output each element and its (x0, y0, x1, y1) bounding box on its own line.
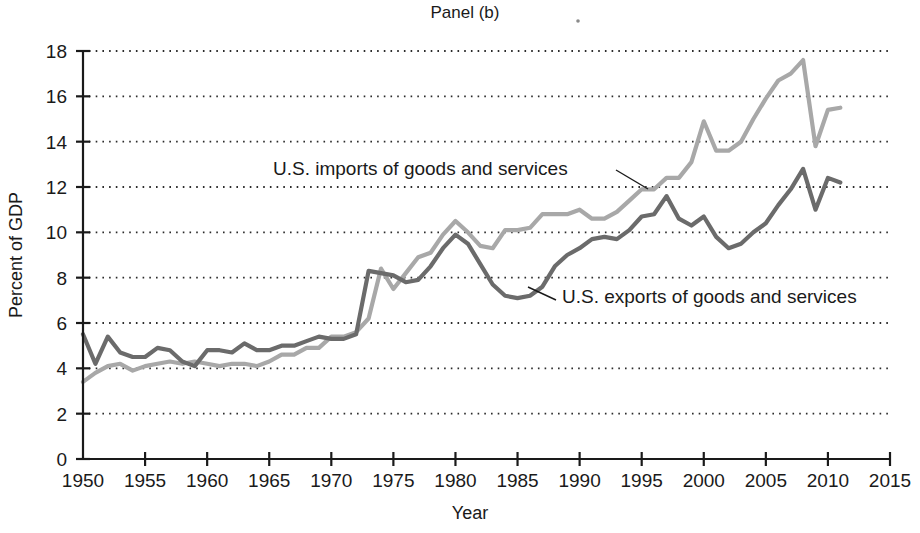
axis-lines (83, 51, 890, 459)
y-tick-label-18: 18 (46, 41, 67, 62)
x-axis-title: Year (452, 503, 488, 523)
gridlines-group (89, 51, 890, 414)
x-tick-label-1980: 1980 (434, 470, 476, 491)
y-tick-label-16: 16 (46, 86, 67, 107)
y-tick-label-4: 4 (56, 358, 67, 379)
x-tick-label-1955: 1955 (124, 470, 166, 491)
dust-speck-artifact (576, 19, 580, 23)
series-line-exports (83, 169, 840, 366)
y-tick-label-2: 2 (56, 404, 67, 425)
y-axis-title: Percent of GDP (6, 192, 26, 318)
y-tick-label-6: 6 (56, 313, 67, 334)
y-tick-label-8: 8 (56, 268, 67, 289)
x-tick-label-1965: 1965 (248, 470, 290, 491)
x-tick-label-1985: 1985 (496, 470, 538, 491)
x-tick-label-1960: 1960 (186, 470, 228, 491)
x-tick-label-2005: 2005 (745, 470, 787, 491)
y-tick-label-0: 0 (56, 449, 67, 470)
y-tick-label-12: 12 (46, 177, 67, 198)
x-tick-label-1995: 1995 (621, 470, 663, 491)
axes-group (76, 51, 890, 466)
x-tick-label-2015: 2015 (869, 470, 911, 491)
y-tick-label-14: 14 (46, 132, 68, 153)
x-tick-label-1975: 1975 (372, 470, 414, 491)
data-series-group (83, 60, 840, 382)
series-line-imports (83, 60, 840, 382)
x-tick-label-2000: 2000 (683, 470, 725, 491)
panel-title: Panel (b) (431, 3, 500, 22)
annotation-label-exports: U.S. exports of goods and services (562, 286, 857, 307)
x-tick-label-1950: 1950 (62, 470, 104, 491)
x-tick-label-1990: 1990 (558, 470, 600, 491)
chart-figure: 0246810121416181950195519601965197019751… (0, 0, 920, 533)
annotation-label-imports: U.S. imports of goods and services (273, 158, 568, 179)
y-tick-label-10: 10 (46, 222, 67, 243)
tick-labels-group: 0246810121416181950195519601965197019751… (46, 41, 911, 491)
x-tick-label-1970: 1970 (310, 470, 352, 491)
x-tick-label-2010: 2010 (807, 470, 849, 491)
